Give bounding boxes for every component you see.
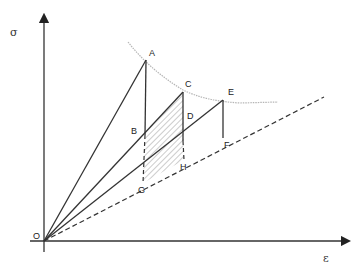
point-label-C: C	[185, 79, 192, 89]
point-label-E: E	[228, 87, 234, 97]
point-label-D: D	[187, 111, 194, 121]
stress-strain-diagram: σ ε O A B C D E F G H	[0, 0, 361, 271]
point-label-G: G	[138, 185, 145, 195]
x-axis-label: ε	[323, 252, 329, 265]
point-label-A: A	[149, 48, 155, 58]
hatched-region	[143, 92, 184, 183]
point-label-H: H	[180, 162, 187, 172]
point-label-B: B	[131, 126, 137, 136]
line-A-B	[145, 60, 146, 135]
point-label-F: F	[224, 140, 230, 150]
line-O-A	[44, 60, 146, 241]
y-axis-label: σ	[10, 26, 18, 39]
line-O-E	[44, 100, 223, 241]
point-label-O: O	[33, 231, 40, 241]
